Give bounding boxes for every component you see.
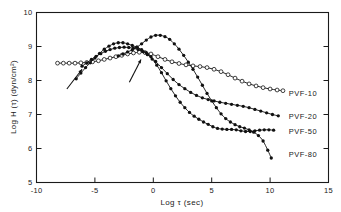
data-point: [230, 103, 233, 106]
data-point: [244, 130, 247, 133]
data-point: [165, 79, 168, 82]
series-label-pvf-80: PVF-80: [289, 150, 317, 159]
data-point: [156, 55, 160, 59]
data-point: [205, 92, 208, 95]
data-point: [163, 58, 167, 62]
data-point: [150, 57, 153, 60]
data-point: [261, 86, 265, 90]
data-point: [113, 47, 116, 50]
data-point: [118, 46, 121, 49]
data-point: [188, 111, 191, 114]
data-point: [193, 115, 196, 118]
data-point: [230, 128, 233, 131]
data-point: [131, 48, 134, 51]
x-tick-label-15: 15: [324, 186, 333, 195]
data-point: [225, 128, 228, 131]
data-point: [242, 105, 245, 108]
data-point: [247, 106, 250, 109]
data-point: [132, 51, 136, 55]
data-point: [97, 59, 101, 63]
data-point: [261, 139, 264, 142]
y-tick-label-9: 9: [28, 42, 32, 51]
data-point: [177, 83, 180, 86]
chart-canvas: -10-5051015 5678910 PVF-10PVF-20PVF-50PV…: [0, 0, 341, 212]
data-point: [90, 58, 93, 61]
data-point: [226, 73, 230, 77]
data-point: [281, 89, 285, 93]
data-point: [84, 66, 87, 69]
data-point: [89, 61, 92, 64]
data-point: [85, 61, 88, 64]
series-pvf-10: [56, 50, 285, 92]
data-point: [145, 38, 148, 41]
data-point: [201, 84, 204, 87]
data-point: [168, 38, 171, 41]
data-point: [259, 109, 262, 112]
plot-frame: [37, 13, 329, 183]
data-point: [187, 60, 190, 63]
data-point: [80, 65, 83, 68]
data-point: [121, 52, 124, 55]
data-point: [235, 128, 238, 131]
data-point: [215, 106, 218, 109]
data-point: [183, 106, 186, 109]
data-point: [177, 62, 181, 66]
data-point: [211, 125, 214, 128]
data-point: [179, 101, 182, 104]
data-point: [219, 112, 222, 115]
data-point: [182, 54, 185, 57]
series-label-pvf-10: PVF-10: [289, 89, 317, 98]
data-point: [67, 61, 71, 65]
series-line-pvf-20: [76, 43, 278, 116]
series-layer: [56, 34, 285, 160]
data-point: [191, 68, 194, 71]
data-point: [239, 129, 242, 132]
x-axis-ticks: [37, 178, 329, 183]
series-label-pvf-20: PVF-20: [289, 112, 317, 121]
data-point: [207, 123, 210, 126]
data-point: [117, 41, 120, 44]
figure-root: -10-5051015 5678910 PVF-10PVF-20PVF-50PV…: [0, 0, 341, 212]
x-tick-label-10: 10: [266, 186, 275, 195]
data-point: [149, 35, 152, 38]
data-point: [170, 60, 174, 64]
y-tick-label-7: 7: [28, 110, 32, 119]
data-point: [254, 84, 258, 88]
data-point: [238, 125, 241, 128]
data-point: [99, 52, 102, 55]
data-point: [122, 46, 125, 49]
data-point: [257, 134, 260, 137]
data-point: [216, 127, 219, 130]
data-point: [163, 35, 166, 38]
data-point: [267, 128, 270, 131]
series-labels: PVF-10PVF-20PVF-50PVF-80: [289, 89, 317, 159]
data-point: [159, 34, 162, 37]
annotation-arrow-left: [67, 69, 82, 89]
data-point: [140, 42, 143, 45]
data-point: [169, 87, 172, 90]
data-point: [221, 127, 224, 130]
data-point: [270, 156, 273, 159]
data-point: [154, 34, 157, 37]
data-point: [212, 67, 216, 71]
data-point: [146, 53, 149, 56]
data-point: [189, 91, 192, 94]
data-point: [195, 94, 198, 97]
data-point: [263, 128, 266, 131]
data-point: [275, 88, 279, 92]
data-point: [112, 42, 115, 45]
y-tick-label-10: 10: [24, 8, 33, 17]
y-tick-label-8: 8: [28, 76, 32, 85]
data-point: [135, 46, 138, 49]
data-point: [104, 50, 107, 53]
y-axis-tick-labels: 5678910: [24, 8, 33, 187]
data-point: [253, 108, 256, 111]
data-point: [224, 102, 227, 105]
data-point: [108, 56, 112, 60]
data-point: [73, 61, 77, 65]
data-point: [102, 58, 106, 62]
data-point: [233, 123, 236, 126]
data-point: [236, 104, 239, 107]
data-point: [61, 61, 65, 65]
x-axis-tick-labels: -10-5051015: [31, 186, 333, 195]
